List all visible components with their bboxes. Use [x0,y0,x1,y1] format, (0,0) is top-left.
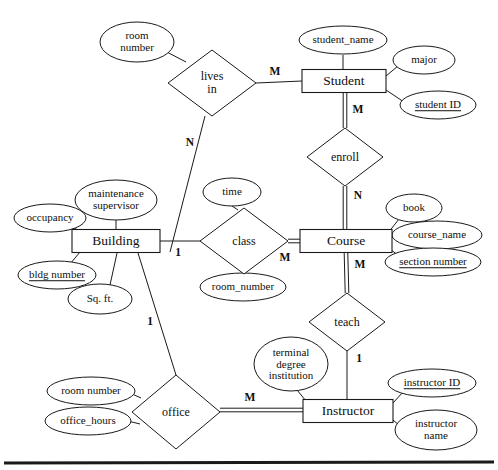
footer-rule [4,462,494,463]
connector-c-student-major [386,66,398,76]
connector-line [256,81,302,83]
connector-line-1 [348,253,349,293]
attribute-ellipse-office-hours[interactable] [45,407,131,435]
connector-c-student-enroll [343,93,347,128]
attribute-ellipse-room-number-office[interactable] [47,377,135,405]
attribute-ellipse-instructor-id[interactable] [388,369,476,397]
connector-line [138,253,176,375]
connector-line [110,253,117,285]
attribute-ellipse-book[interactable] [386,194,442,222]
entity-rect-instructor[interactable] [303,400,393,423]
connector-line [393,392,403,403]
connector-c-student-id [386,90,404,102]
connector-c-office-instructor [220,408,303,412]
connector-line [386,90,404,102]
attribute-ellipse-terminal-degree[interactable] [254,337,328,391]
entity-rect-course[interactable] [300,230,392,253]
connector-line [386,66,398,76]
connector-c-instructor-id [393,392,403,403]
relationship-diamond-enroll[interactable] [307,128,383,186]
connector-c-enroll-course [343,186,347,230]
connector-c-livesin-building [170,116,205,252]
attribute-ellipse-time[interactable] [203,178,261,206]
attribute-ellipse-sq-ft[interactable] [68,284,132,314]
entity-rect-building[interactable] [72,230,160,253]
entity-rect-student[interactable] [302,70,386,93]
attribute-ellipse-student-id[interactable] [400,91,476,119]
connector-line [170,116,205,252]
er-diagram-canvas: roomnumberstudent_namemajorstudent IDmai… [0,0,498,470]
attribute-ellipse-instructor-name[interactable] [395,410,477,450]
connector-c-building-office [138,253,176,375]
attribute-ellipse-maintenance-supervisor[interactable] [75,180,157,220]
attribute-ellipse-section-number[interactable] [385,248,481,276]
attribute-ellipse-course-name[interactable] [392,221,482,249]
er-diagram-shapes [0,0,498,470]
connector-line-0 [344,253,345,293]
connector-c-class-course [288,239,300,243]
relationship-diamond-teach[interactable] [309,293,385,351]
attribute-ellipse-major[interactable] [393,46,455,74]
connector-c-livesin-student [256,81,302,83]
attribute-ellipse-occupancy[interactable] [14,204,86,232]
connector-line [232,206,238,210]
relationship-diamond-class[interactable] [200,208,288,274]
connector-c-building-sqft [110,253,117,285]
relationship-diamond-office[interactable] [132,375,220,449]
attribute-ellipse-bldg-number[interactable] [18,261,96,289]
attribute-ellipse-room-number-class[interactable] [200,273,286,301]
attribute-ellipse-room-number-lives-in[interactable] [100,22,174,62]
connector-c-class-time [232,206,238,210]
attribute-ellipse-student-name[interactable] [299,26,387,54]
connector-c-course-teach [344,253,349,293]
